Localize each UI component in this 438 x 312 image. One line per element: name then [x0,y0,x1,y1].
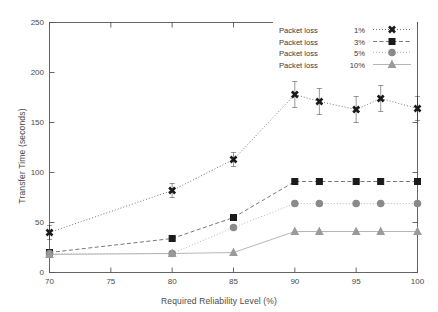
y-tick-label: 0 [14,268,44,277]
legend-item-label: Packet loss [279,38,341,47]
x-axis-title: Required Reliability Level (%) [0,296,438,306]
chart-legend: Packet loss1%Packet loss3%Packet loss5%P… [273,22,417,74]
y-tick-label: 250 [14,18,44,27]
legend-sample-triangle-icon [372,59,412,72]
x-tick-label: 90 [280,277,310,286]
legend-item-label: Packet loss [279,61,341,70]
legend-item-value: 1% [341,26,372,35]
legend-item-label: Packet loss [279,49,341,58]
x-tick-label: 85 [219,277,249,286]
y-axis-title: Transfer Time (seconds) [17,66,27,246]
chart-figure: 050100150200250 707580859095100 Required… [0,0,438,312]
legend-item-label: Packet loss [279,26,341,35]
legend-item: Packet loss10% [279,60,412,72]
x-tick-label: 80 [157,277,187,286]
legend-item-value: 5% [341,49,372,58]
x-tick-label: 100 [403,277,433,286]
x-tick-label: 95 [341,277,371,286]
legend-item-value: 10% [341,61,372,70]
legend-item-value: 3% [341,38,372,47]
x-tick-label: 70 [35,277,65,286]
data-series-group [46,82,421,258]
x-tick-label: 75 [96,277,126,286]
